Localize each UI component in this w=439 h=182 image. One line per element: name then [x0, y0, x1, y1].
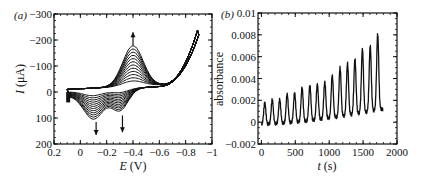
x-tick-labels-a: 0.20−0.2−0.4−0.6−0.8−1: [47, 146, 218, 158]
x-tick-label: −0.2: [97, 146, 117, 158]
y-tick-label: −200: [29, 34, 52, 46]
y-tick-label: 0.01: [237, 7, 256, 19]
y-tick-label: 0.008: [231, 29, 256, 41]
y-tick-label: 0.002: [231, 94, 256, 106]
figure: (a) 0.20−0.2−0.4−0.6−0.8−1 −300−200−1000…: [0, 0, 439, 182]
x-tick-label: −0.4: [123, 146, 143, 158]
y-tick-labels-a: −300−200−1000100200: [29, 8, 52, 150]
x-tick-label: 0: [78, 146, 84, 158]
x-tick-label: 2000: [386, 146, 409, 158]
y-tick-labels-b: 0.010.0080.0060.0040.0020−0.002: [225, 7, 256, 150]
y-tick-label: −100: [29, 60, 52, 72]
x-tick-label: 0: [259, 146, 265, 158]
y-unit-a: (μA): [13, 64, 27, 90]
y-axis-label-b: absorbance: [212, 52, 226, 106]
x-axis-label-b: t (s): [317, 159, 336, 173]
y-axis-label-a: I (μA): [13, 64, 27, 95]
x-tick-label: −1: [206, 146, 218, 158]
y-tick-label: 200: [36, 138, 53, 150]
x-tick-label: −0.8: [176, 146, 196, 158]
x-tick-label: −0.6: [149, 146, 169, 158]
chart-a: (a) 0.20−0.2−0.4−0.6−0.8−1 −300−200−1000…: [13, 8, 218, 173]
chart-b: (b) 0500100015002000 0.010.0080.0060.004…: [212, 7, 409, 173]
x-unit-a: (V): [127, 159, 147, 173]
x-axis-label-a: E (V): [118, 159, 146, 173]
x-tick-label: 1000: [318, 146, 341, 158]
y-tick-label: −300: [29, 8, 52, 20]
y-tick-label: 100: [36, 112, 53, 124]
x-tick-label: 500: [287, 146, 304, 158]
y-tick-label: −0.002: [225, 138, 256, 150]
x-tick-label: 1500: [352, 146, 375, 158]
y-tick-label: 0: [47, 86, 53, 98]
panel-label-b: (b): [221, 8, 234, 21]
x-tick-labels-b: 0500100015002000: [259, 146, 409, 158]
absorbance-trace: [261, 34, 382, 126]
y-tick-label: 0: [251, 116, 257, 128]
y-tick-label: 0.006: [231, 51, 256, 63]
panel-label-a: (a): [14, 9, 27, 22]
x-unit-b: (s): [321, 159, 337, 173]
y-tick-label: 0.004: [231, 73, 256, 85]
